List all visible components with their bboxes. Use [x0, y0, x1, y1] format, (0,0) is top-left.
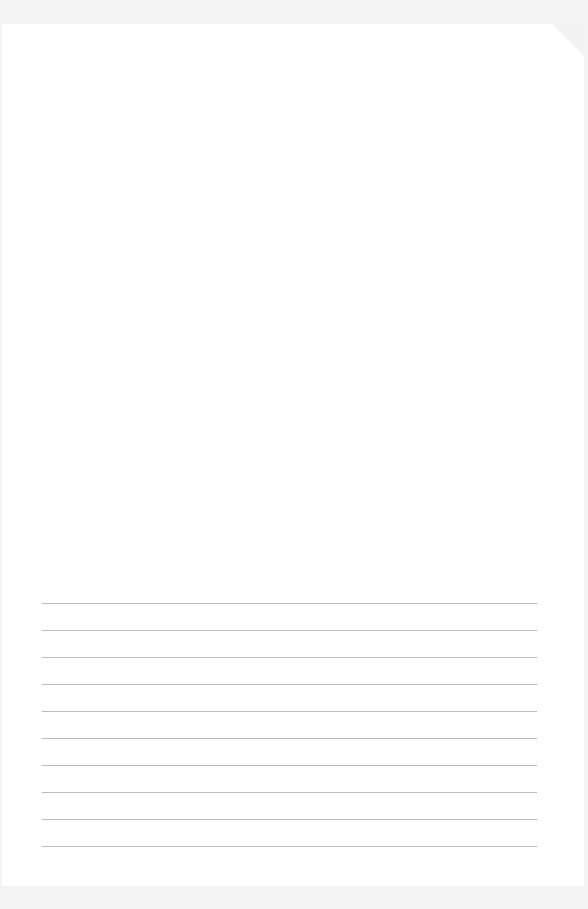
paper-sheet: [2, 24, 584, 886]
ruled-line-5: [42, 711, 537, 712]
ruled-line-9: [42, 819, 537, 820]
ruled-line-10: [42, 846, 537, 847]
ruled-line-7: [42, 765, 537, 766]
page-corner-fold: [552, 24, 584, 56]
ruled-line-8: [42, 792, 537, 793]
ruled-line-2: [42, 630, 537, 631]
ruled-line-3: [42, 657, 537, 658]
ruled-line-1: [42, 603, 537, 604]
ruled-lines: [42, 603, 537, 873]
ruled-line-6: [42, 738, 537, 739]
ruled-line-4: [42, 684, 537, 685]
